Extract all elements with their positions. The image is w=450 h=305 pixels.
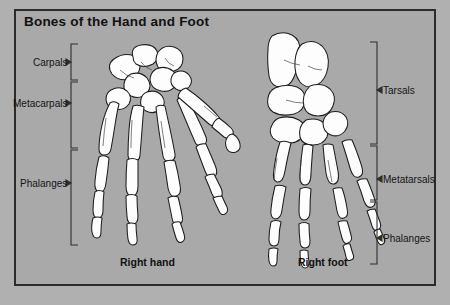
caption-right-hand: Right hand	[120, 256, 175, 268]
foot-skeleton-illustration	[0, 0, 450, 305]
metatarsal-bones-group	[273, 140, 362, 185]
caption-right-foot: Right foot	[298, 256, 348, 268]
label-metatarsals: Metatarsals	[383, 174, 435, 185]
tarsal-bones-group	[268, 33, 348, 145]
label-phalanges-hand: Phalanges	[20, 178, 67, 189]
label-metacarpals: Metacarpals	[13, 98, 67, 109]
foot-bracket-tarsals	[370, 42, 382, 144]
label-carpals: Carpals	[33, 57, 67, 68]
figure-bones-hand-and-foot: Bones of the Hand and Foot	[0, 0, 450, 305]
label-tarsals: Tarsals	[383, 85, 415, 96]
label-phalanges-foot: Phalanges	[383, 233, 430, 244]
foot-proximal-phalanges	[271, 179, 375, 220]
